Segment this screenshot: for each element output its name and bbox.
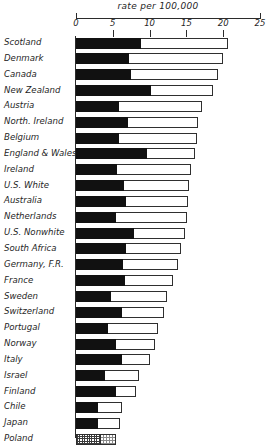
bar-row-label: Canada (4, 69, 80, 80)
bar-row-label: North. Ireland (4, 116, 80, 127)
bar-row: Norway (0, 337, 274, 353)
bar-row: U.S. White (0, 179, 274, 195)
bar-row-label: Japan (4, 417, 80, 428)
bar-row: Israel (0, 369, 274, 385)
bar-segment-filled (76, 402, 98, 413)
bar-segment-filled (76, 323, 108, 334)
bar-rows: ScotlandDenmarkCanadaNew ZealandAustriaN… (0, 36, 274, 448)
bar-row: U.S. Nonwhite (0, 226, 274, 242)
bar-row-label: Germany, F.R. (4, 259, 80, 270)
bar-row-label: Portugal (4, 322, 80, 333)
bar-segment-filled (76, 339, 116, 350)
bar-row: Switzerland (0, 305, 274, 321)
bar-row: Canada (0, 68, 274, 84)
bar-row-label: Ireland (4, 164, 80, 175)
bar-row-label: Chile (4, 401, 80, 412)
bar-segment-filled (76, 275, 125, 286)
bar-segment-filled (76, 418, 98, 429)
bar-segment-filled (76, 53, 129, 64)
bar-row-label: U.S. Nonwhite (4, 227, 80, 238)
bar-row: South Africa (0, 242, 274, 258)
bar-row-label: Austria (4, 100, 80, 111)
bar-segment-filled (76, 69, 131, 80)
bar-row: France (0, 274, 274, 290)
bar-row-label: U.S. White (4, 180, 80, 191)
bar-segment-filled (76, 164, 117, 175)
bar-row-label: New Zealand (4, 85, 80, 96)
bar-segment-filled (76, 148, 147, 159)
bar-segment-filled (76, 133, 119, 144)
x-axis-cap-right (260, 13, 261, 19)
bar-row: Italy (0, 353, 274, 369)
x-tick-label: 20 (218, 18, 229, 28)
bar-segment-filled (76, 228, 134, 239)
bar-row-label: Switzerland (4, 306, 80, 317)
x-tick-label: 25 (255, 18, 266, 28)
chart-title: rate per 100,000 (88, 1, 228, 11)
x-tick-label: 15 (181, 18, 192, 28)
bar-segment-filled (76, 38, 141, 49)
bar-row: Belgium (0, 131, 274, 147)
x-tick-label: 5 (110, 18, 115, 28)
bar-row: North. Ireland (0, 115, 274, 131)
bar-row: Portugal (0, 321, 274, 337)
bar-segment-filled (76, 117, 128, 128)
bar-row: Netherlands (0, 210, 274, 226)
bar-segment-filled (76, 85, 151, 96)
x-tick-label: 0 (73, 18, 78, 28)
bar-row: Denmark (0, 52, 274, 68)
bar-segment-filled (76, 196, 126, 207)
bar-segment-filled (76, 291, 111, 302)
bar-row-label: Finland (4, 386, 80, 397)
bar-row: England & Wales (0, 147, 274, 163)
x-tick-label: 10 (144, 18, 155, 28)
bar-segment-filled (76, 354, 122, 365)
bar-row-label: Netherlands (4, 211, 80, 222)
bar-row-label: Israel (4, 370, 80, 381)
bar-row-label: Belgium (4, 132, 80, 143)
bar-row: Ireland (0, 163, 274, 179)
bar-row-label: South Africa (4, 243, 80, 254)
bar-row-label: France (4, 275, 80, 286)
bar-row-label: Australia (4, 195, 80, 206)
bar-row: Sweden (0, 290, 274, 306)
x-axis-cap-left (76, 13, 77, 19)
bar-segment-filled (76, 386, 116, 397)
bar-segment-filled (76, 370, 105, 381)
bar-row-label: Denmark (4, 53, 80, 64)
bar-segment-filled (76, 180, 124, 191)
bar-row-label: Norway (4, 338, 80, 349)
bar-row-label: Italy (4, 354, 80, 365)
bar-row: Japan (0, 416, 274, 432)
bar-segment-filled (76, 243, 126, 254)
bar-row: Austria (0, 99, 274, 115)
bar-segment-filled (76, 259, 123, 270)
bar-row: Poland (0, 432, 274, 448)
bar-row: Chile (0, 400, 274, 416)
bar-segment-filled (76, 307, 122, 318)
bar-row-label: Poland (4, 433, 80, 444)
bar-row-label: England & Wales (4, 148, 80, 159)
bar-row-label: Scotland (4, 37, 80, 48)
bar-row-label: Sweden (4, 291, 80, 302)
bar-row: Germany, F.R. (0, 258, 274, 274)
bar-row: Scotland (0, 36, 274, 52)
x-axis-line (76, 18, 261, 19)
bar-segment-filled (76, 434, 101, 445)
bar-row: Australia (0, 194, 274, 210)
bar-row: Finland (0, 385, 274, 401)
bar-segment-filled (76, 212, 116, 223)
bar-row: New Zealand (0, 84, 274, 100)
bar-segment-filled (76, 101, 119, 112)
